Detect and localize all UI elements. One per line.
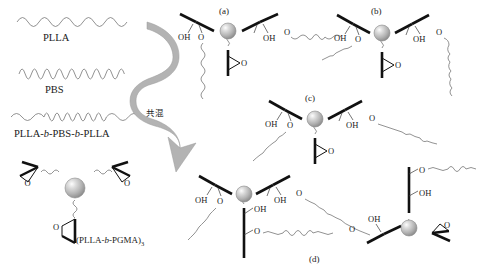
panel-d-o-left: O — [217, 196, 223, 206]
panel-a-oh-right: OH — [263, 33, 275, 43]
panel-d-oh-left: OH — [195, 195, 207, 205]
panel-b-core-sphere — [374, 25, 390, 41]
blend-arrow-label: 共混 — [146, 108, 164, 118]
panel-d-label: (d) — [309, 254, 320, 264]
star-oxygen-right: O — [124, 178, 130, 188]
panel-d-partner-core-sphere — [401, 220, 417, 236]
panel-a-oh-left: OH — [178, 32, 190, 42]
legend-label-pbs: PBS — [45, 84, 64, 95]
panel-b-oh-left: OH — [334, 33, 346, 43]
star-label-subscript: 3 — [141, 240, 144, 247]
panel-d-partner-oh-up: OH — [419, 188, 431, 198]
figure-canvas: PLLA PBS PLLA-b-PBS-b-PLLA O — [0, 0, 487, 275]
panel-c-oh-right: OH — [346, 120, 358, 130]
panel-c-oh-left: OH — [265, 119, 277, 129]
panel-c-core-sphere — [307, 111, 323, 127]
panel-b-o-left: O — [355, 34, 361, 44]
star-oxygen-left: O — [25, 178, 31, 188]
star-polymer-label: (PLLA-b-PGMA)3 — [76, 235, 144, 247]
panel-d-core-sphere — [236, 186, 252, 202]
legend-label-plla: PLLA — [43, 32, 70, 43]
panel-d-oh-bottom: OH — [254, 204, 266, 214]
panel-d-partner-epoxide-o: O — [444, 220, 450, 230]
panel-b-epoxide-oxygen: O — [395, 60, 401, 70]
panel-c-o-left: O — [287, 120, 293, 130]
panel-a-o-right: O — [284, 27, 290, 37]
panel-a-epoxide-oxygen: O — [241, 58, 247, 68]
star-core-sphere — [65, 178, 85, 198]
panel-c-o-right: O — [369, 113, 375, 123]
panel-b-o-right: O — [436, 27, 442, 37]
panel-a-o-left: O — [198, 32, 204, 42]
star-label-part-2: -PGMA) — [109, 235, 141, 245]
panel-b-oh-right: OH — [413, 34, 425, 44]
panel-d-partner-oh: OH — [368, 214, 380, 224]
star-label-part-0: (PLLA- — [76, 235, 105, 245]
legend-label-triblock: PLLA-b-PBS-b-PLLA — [14, 128, 110, 139]
panel-d-oh-right: OH — [274, 195, 286, 205]
triblock-part-2: -PBS- — [49, 128, 75, 139]
panel-c-label: (c) — [305, 93, 315, 103]
panel-c-epoxide-oxygen: O — [328, 146, 334, 156]
panel-d-partner-o: O — [349, 224, 355, 234]
panel-d-o-bottom: O — [254, 226, 260, 236]
scheme-svg: PLLA PBS PLLA-b-PBS-b-PLLA O — [0, 0, 487, 275]
panel-a-core-sphere — [220, 23, 236, 39]
panel-a-label: (a) — [219, 6, 229, 16]
triblock-part-0: PLLA- — [14, 128, 44, 139]
panel-d-partner-o-up: O — [419, 165, 425, 175]
panel-b-label: (b) — [371, 6, 382, 16]
star-oxygen-bottom: O — [53, 222, 59, 232]
triblock-part-4: -PLLA — [80, 128, 110, 139]
panel-d-o-right: O — [296, 188, 302, 198]
